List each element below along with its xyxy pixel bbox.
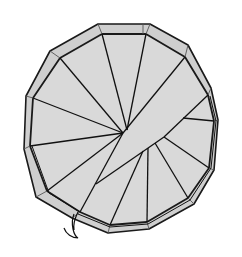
spiral-staircase-diagram: Spiral staircase plan view xyxy=(0,0,242,257)
staircase-plan-svg xyxy=(0,0,242,257)
